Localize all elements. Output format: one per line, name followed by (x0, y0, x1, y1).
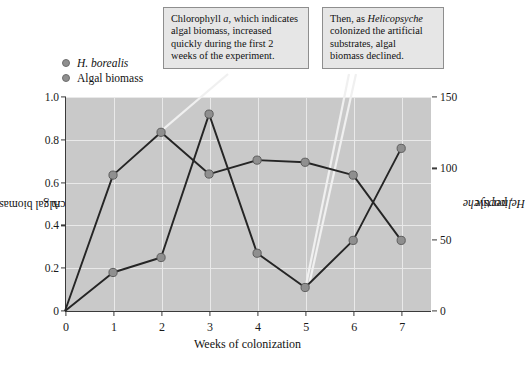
legend-label: Algal biomass (77, 72, 143, 84)
y-axis-right-tick-label: 150 (431, 91, 484, 103)
gridline-horizontal (66, 183, 431, 184)
y-axis-left-tick-label: 0.2 (17, 262, 66, 274)
callout-text: Then, as (330, 13, 367, 24)
y-axis-left-tick-label: 0.8 (17, 134, 66, 146)
gridline-vertical (354, 97, 355, 311)
y-axis-right-tick-label: 100 (431, 162, 484, 174)
legend-item-h-borealis: H. borealis (62, 55, 143, 70)
x-axis-tick-label: 4 (245, 311, 271, 335)
y-axis-left-title: Algal biomass, as chlorophyll a (µg/cm2) (6, 97, 23, 311)
y-axis-left-tick-label: 1.0 (17, 91, 66, 103)
callout-line: Chlorophyll a, which indicates (171, 13, 302, 25)
callout-line: substrates, algal (330, 38, 437, 50)
gridline-vertical (306, 97, 307, 311)
legend-marker-icon (62, 59, 70, 67)
y-axis-right-title-text: , per tile (451, 198, 513, 210)
gridline-horizontal (66, 140, 431, 141)
y-axis-left-tick-label: 0.4 (17, 219, 66, 231)
callout-line: algal biomass, increased (171, 25, 302, 37)
y-axis-right-tick-label: 0 (431, 305, 484, 317)
callout-line: colonized the artificial (330, 25, 437, 37)
legend-item-algal-biomass: Algal biomass (62, 70, 143, 85)
callout-text-italic: Helicopsyche (367, 13, 422, 24)
x-axis-tick-label: 5 (293, 311, 319, 335)
y-axis-right-tick-label: 50 (431, 234, 484, 246)
x-axis-tick-label: 1 (101, 311, 127, 335)
annotation-callout-helicopsyche: Then, as Helicopsyche colonized the arti… (322, 7, 444, 69)
gridline-vertical (162, 97, 163, 311)
callout-line: biomass declined. (330, 50, 437, 62)
callout-line: Then, as Helicopsyche (330, 13, 437, 25)
callout-line: weeks of the experiment. (171, 50, 302, 62)
gridline-vertical (114, 97, 115, 311)
y-axis-right-title: Helicopsyche, per tile (479, 97, 496, 311)
y-axis-left-tick-label: 0.6 (17, 177, 66, 189)
x-axis-tick-label: 3 (197, 311, 223, 335)
callout-text: , which indicates (229, 13, 298, 24)
gridline-horizontal (66, 268, 431, 269)
legend: H. borealis Algal biomass (62, 55, 143, 85)
annotation-callout-chlorophyll: Chlorophyll a, which indicates algal bio… (163, 7, 309, 69)
plot-area: 00.20.40.60.81.005010015001234567 (65, 97, 431, 312)
x-axis-tick-label: 2 (149, 311, 175, 335)
callout-line: quickly during the first 2 (171, 38, 302, 50)
x-axis-title: Weeks of colonization (65, 337, 430, 352)
gridline-vertical (210, 97, 211, 311)
x-axis-tick-label: 6 (341, 311, 367, 335)
gridline-vertical (402, 97, 403, 311)
x-axis-tick-label: 0 (53, 311, 79, 335)
gridline-horizontal (66, 225, 431, 226)
gridline-horizontal (66, 97, 431, 98)
gridline-vertical (258, 97, 259, 311)
legend-marker-icon (62, 74, 70, 82)
callout-text: Chlorophyll (171, 13, 223, 24)
x-axis-tick-label: 7 (389, 311, 415, 335)
legend-label: H. borealis (77, 57, 128, 69)
